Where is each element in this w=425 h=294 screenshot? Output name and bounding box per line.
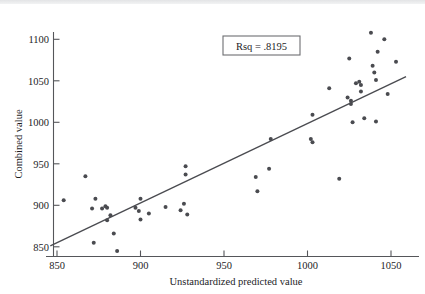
y-tick-label-950: 950 [33, 159, 49, 170]
y-tick-label-1050: 1050 [28, 76, 49, 87]
data-point [346, 95, 350, 99]
data-point [311, 113, 315, 117]
y-tick-label-850: 850 [33, 242, 49, 253]
data-points-group [62, 31, 398, 253]
data-point [369, 31, 373, 35]
rsq-annotation: Rsq = .8195 [223, 36, 300, 55]
y-tick-label-900: 900 [33, 200, 49, 211]
data-point [394, 60, 398, 64]
data-point [254, 175, 258, 179]
data-point [185, 212, 189, 216]
x-axis-tick-labels: 850 900 950 1000 1050 [49, 260, 401, 271]
chart-canvas: 1100 1050 1000 950 900 850 850 900 950 1… [0, 4, 425, 294]
data-point [83, 174, 87, 178]
x-tick-label-950: 950 [216, 260, 232, 271]
data-point [349, 102, 353, 106]
data-point [337, 177, 341, 181]
data-point [112, 232, 116, 236]
data-point [182, 202, 186, 206]
x-axis-title: Unstandardized predicted value [170, 276, 303, 287]
data-point [351, 120, 355, 124]
y-axis-tick-labels: 1100 1050 1000 950 900 850 [28, 34, 49, 253]
x-tick-label-1050: 1050 [381, 260, 402, 271]
data-point [92, 241, 96, 245]
data-point [133, 206, 137, 210]
data-point [374, 78, 378, 82]
scatter-plot-figure: 1100 1050 1000 950 900 850 850 900 950 1… [0, 4, 425, 294]
data-point [105, 218, 109, 222]
data-point [108, 213, 112, 217]
x-tick-label-900: 900 [133, 260, 149, 271]
data-point [376, 50, 380, 54]
data-point [139, 197, 143, 201]
y-tick-label-1000: 1000 [28, 117, 49, 128]
x-tick-label-1000: 1000 [297, 260, 318, 271]
data-point [269, 137, 273, 141]
data-point [267, 167, 271, 171]
data-point [105, 206, 109, 210]
data-point [147, 212, 151, 216]
y-tick-label-1100: 1100 [28, 34, 49, 45]
data-point [179, 208, 183, 212]
data-point [372, 71, 376, 75]
data-point [184, 164, 188, 168]
data-point [93, 197, 97, 201]
x-axis-ticks [57, 251, 391, 257]
data-point [371, 64, 375, 68]
data-point [139, 217, 143, 221]
x-tick-label-850: 850 [49, 260, 65, 271]
data-point [327, 86, 331, 90]
data-point [164, 205, 168, 209]
rsq-annotation-label: Rsq = .8195 [236, 41, 287, 52]
chart-page: 1100 1050 1000 950 900 850 850 900 950 1… [0, 0, 425, 294]
data-point [347, 56, 351, 60]
data-point [382, 37, 386, 41]
data-point [311, 140, 315, 144]
data-point [359, 83, 363, 87]
data-point [100, 207, 104, 211]
data-point [115, 249, 119, 253]
regression-line [50, 77, 406, 246]
data-point [90, 207, 94, 211]
data-point [62, 198, 66, 202]
data-point [362, 116, 366, 120]
data-point [184, 173, 188, 177]
data-point [359, 90, 363, 94]
data-point [374, 119, 378, 123]
data-point [386, 92, 390, 96]
data-point [137, 209, 141, 213]
y-axis-ticks [54, 39, 60, 247]
y-axis-title: Combined value [13, 109, 24, 178]
data-point [255, 189, 259, 193]
